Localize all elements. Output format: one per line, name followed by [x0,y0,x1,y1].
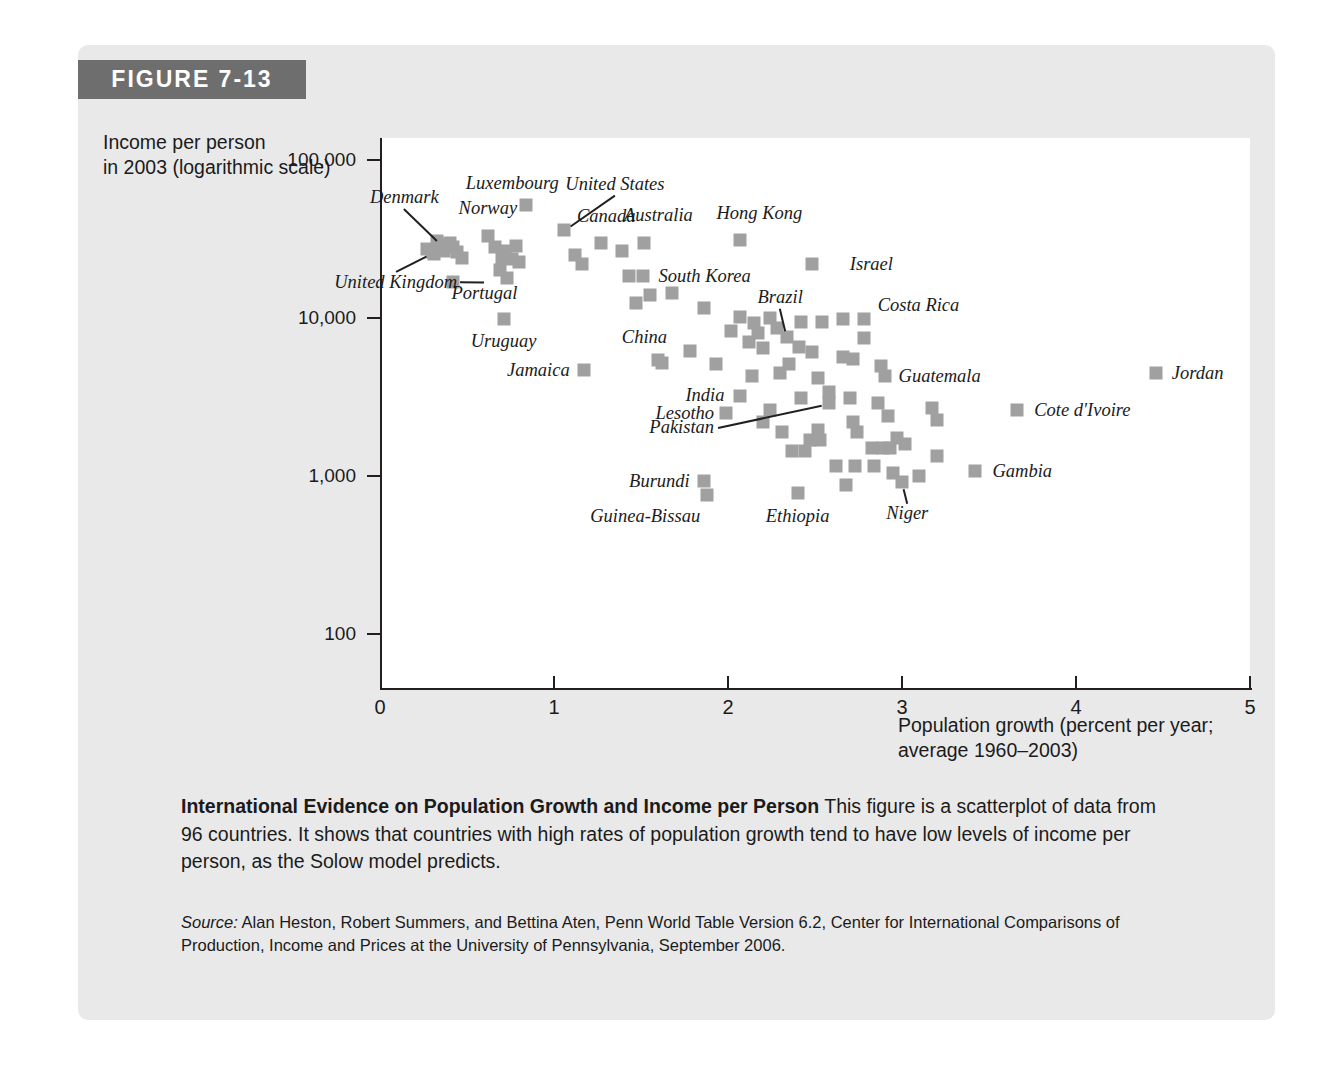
data-point [847,353,860,366]
point-label-jamaica: Jamaica [507,359,570,380]
point-label-luxembourg: Luxembourg [466,172,559,193]
data-point [795,392,808,405]
x-axis-line [380,688,1252,690]
data-point [756,341,769,354]
data-point-israel [805,257,818,270]
y-axis-tick [367,475,380,477]
data-point [843,392,856,405]
source-label: Source: [181,913,238,931]
data-point [812,371,825,384]
x-axis-tick [1249,676,1251,689]
data-point [913,470,926,483]
data-point [746,369,759,382]
data-point [850,425,863,438]
data-point [622,269,635,282]
data-point [697,302,710,315]
data-point-australia [638,236,651,249]
data-point-brazil [781,330,794,343]
data-point [868,460,881,473]
data-point [615,245,628,258]
point-label-norway: Norway [459,197,518,218]
data-point-united-kingdom [426,246,439,259]
figure-page: FIGURE 7-13 Income per person in 2003 (l… [0,0,1328,1066]
x-axis-title: Population growth (percent per year; ave… [898,713,1288,763]
data-point [805,345,818,358]
data-point [793,340,806,353]
data-point [629,296,642,309]
y-axis-tick-label: 100,000 [78,149,356,171]
data-point [930,414,943,427]
x-axis-title-line2: average 1960–2003) [898,738,1288,763]
figure-caption: International Evidence on Population Gro… [181,793,1181,876]
data-point-china [652,354,665,367]
data-point-lesotho [720,407,733,420]
figure-number-label: FIGURE 7-13 [111,66,272,93]
point-label-south-korea: South Korea [658,265,750,286]
data-point-south-korea [636,269,649,282]
point-label-uruguay: Uruguay [471,330,537,351]
data-point [734,310,747,323]
source-text: Alan Heston, Robert Summers, and Bettina… [181,913,1120,954]
point-label-ethiopia: Ethiopia [766,505,830,526]
point-label-burundi: Burundi [629,470,690,491]
data-point [930,450,943,463]
y-axis-tick [367,159,380,161]
point-label-hong-kong: Hong Kong [716,203,802,224]
data-point-cote-d-ivoire [1010,404,1023,417]
data-point-india [734,390,747,403]
data-point [683,344,696,357]
data-point-jamaica [577,363,590,376]
data-point [798,444,811,457]
x-axis-tick-label: 5 [1244,696,1255,719]
data-point [455,251,468,264]
point-label-israel: Israel [850,253,893,274]
data-point [575,257,588,270]
data-point-luxembourg [520,198,533,211]
x-axis-tick-label: 1 [548,696,559,719]
data-point [882,409,895,422]
data-point [509,240,522,253]
data-point-jordan [1150,366,1163,379]
figure-banner: FIGURE 7-13 [78,60,306,99]
data-point [725,324,738,337]
point-label-jordan: Jordan [1172,362,1224,383]
data-point [815,315,828,328]
data-point [786,444,799,457]
point-label-gambia: Gambia [992,460,1052,481]
data-point [774,366,787,379]
data-point [857,331,870,344]
x-axis-title-line1: Population growth (percent per year; [898,713,1288,738]
data-point [775,425,788,438]
data-point-niger [896,475,909,488]
data-point [795,316,808,329]
point-label-cote-d-ivoire: Cote d'Ivoire [1034,400,1130,421]
data-point [871,396,884,409]
data-point [925,401,938,414]
data-point [899,437,912,450]
data-point [883,442,896,455]
data-point [836,312,849,325]
data-point [849,460,862,473]
data-point [829,460,842,473]
x-axis-tick [727,676,729,689]
x-axis-tick-label: 3 [896,696,907,719]
y-axis-tick-label: 1,000 [78,465,356,487]
data-point-canada [594,236,607,249]
point-label-united-states: United States [565,174,664,195]
point-label-guinea-bissau: Guinea-Bissau [590,505,700,526]
leader-line-portugal [460,282,484,284]
point-label-australia: Australia [624,204,693,225]
data-point-costa-rica [857,313,870,326]
y-axis-tick [367,633,380,635]
figure-source: Source: Alan Heston, Robert Summers, and… [181,911,1191,958]
data-point [666,286,679,299]
data-point [513,256,526,269]
x-axis-tick-label: 4 [1070,696,1081,719]
data-point-hong-kong [734,234,747,247]
y-axis-tick-label: 100 [78,623,356,645]
data-point-guinea-bissau [701,488,714,501]
data-point-pakistan [822,396,835,409]
data-point-burundi [697,474,710,487]
data-point [742,336,755,349]
x-axis-tick-label: 2 [722,696,733,719]
